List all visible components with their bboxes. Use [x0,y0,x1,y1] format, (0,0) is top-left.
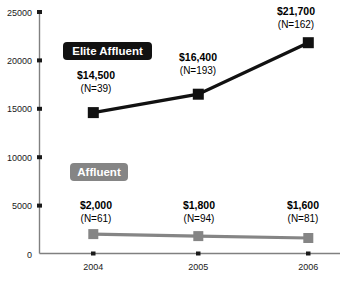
legend-badge-affluent: Affluent [70,163,128,181]
legend-badge-elite-affluent-label: Elite Affluent [72,45,143,57]
x-tick-label-2006: 2006 [298,262,318,272]
series-point-affluent-2006 [303,233,313,243]
y-tick-mark-20000 [37,58,42,62]
series-point-affluent-2005 [193,231,203,241]
chart-background [0,0,342,286]
data-label-affluent-2006-count: (N=81) [288,213,319,224]
data-label-affluent-2005-count: (N=94) [184,213,215,224]
y-tick-label-10000: 10000 [7,153,32,163]
y-tick-label-20000: 20000 [7,56,32,66]
y-tick-label-0: 0 [27,250,32,260]
y-tick-label-25000: 25000 [7,8,32,18]
x-tick-label-2005: 2005 [188,262,208,272]
x-tick-mark-2004 [91,252,96,256]
y-tick-label-5000: 5000 [12,201,32,211]
data-label-elite-2004-value: $14,500 [77,69,115,81]
legend-badge-affluent-label: Affluent [77,166,121,178]
data-label-elite-2005-count: (N=193) [180,65,216,76]
x-tick-mark-2006 [306,252,311,256]
data-label-affluent-2004-value: $2,000 [80,199,112,211]
series-point-elite-affluent-2005 [193,89,204,100]
data-label-affluent-2006-value: $1,600 [287,199,319,211]
data-label-elite-2004-count: (N=39) [81,83,112,94]
data-label-elite-2005-value: $16,400 [179,51,217,63]
y-tick-label-15000: 15000 [7,104,32,114]
x-tick-label-2004: 2004 [83,262,103,272]
series-point-elite-affluent-2004 [88,107,99,118]
y-tick-mark-25000 [37,10,42,14]
y-tick-mark-15000 [37,107,42,111]
legend-badge-elite-affluent: Elite Affluent [63,42,152,60]
data-label-affluent-2004-count: (N=61) [81,213,112,224]
line-chart: 25000 20000 15000 10000 5000 0 2004 2005… [0,0,342,286]
x-tick-mark-2005 [196,252,201,256]
series-point-affluent-2004 [88,229,98,239]
y-tick-mark-10000 [37,155,42,159]
series-point-elite-affluent-2006 [303,37,314,48]
data-label-elite-2006-count: (N=162) [278,19,314,30]
chart-container: 25000 20000 15000 10000 5000 0 2004 2005… [0,0,342,286]
y-tick-mark-5000 [37,204,42,208]
data-label-affluent-2005-value: $1,800 [183,199,215,211]
data-label-elite-2006-value: $21,700 [277,5,315,17]
